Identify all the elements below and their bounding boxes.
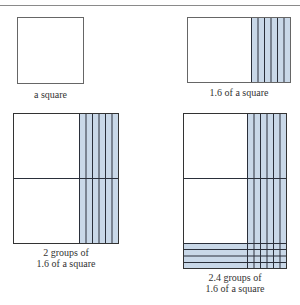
caption-two-groups: 2 groups of 1.6 of a square: [13, 247, 119, 269]
caption-line: 1.6 of a square: [187, 87, 291, 98]
caption-two-point-four-groups: 2.4 groups of 1.6 of a square: [183, 272, 287, 294]
panel-square: [18, 18, 84, 84]
panel-two-groups: [14, 114, 119, 244]
caption-square: a square: [17, 89, 84, 100]
caption-one-point-six: 1.6 of a square: [187, 87, 291, 98]
panel-one-point-six: [188, 18, 291, 83]
caption-line: 1.6 of a square: [183, 283, 287, 294]
caption-line: 1.6 of a square: [13, 258, 119, 269]
caption-line: 2 groups of: [13, 247, 119, 258]
panel-two-point-four-groups: [184, 114, 287, 269]
caption-line: 2.4 groups of: [183, 272, 287, 283]
caption-line: a square: [17, 89, 84, 100]
